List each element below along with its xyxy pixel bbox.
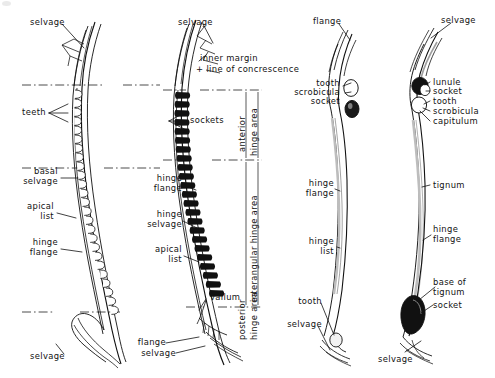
label-p2-vallum: vallum [210, 293, 240, 303]
label-p4-tignum: tignum [433, 181, 465, 191]
label-p1-selvage-top: selvage [30, 18, 65, 28]
label-region-posterior-hinge-area: hinge area [249, 292, 259, 340]
label-p2-apical-list: apical list [138, 245, 182, 264]
panel-4-socket-bottom [401, 296, 425, 334]
panel-1-specimen [62, 22, 126, 368]
label-p3-hinge-flange: hinge flange [292, 179, 334, 198]
label-region-interangular-hinge-area: interangular hinge area [249, 195, 259, 302]
label-p2-inner-margin: inner margin [200, 54, 258, 64]
label-p3-tooth-bottom: tooth [290, 297, 322, 307]
label-region-posterior: posterior [237, 299, 247, 340]
panel-3-tooth-bottom [330, 333, 342, 347]
label-p1-apical-list: apical list [10, 202, 54, 221]
label-p1-teeth: teeth [14, 108, 46, 118]
panel-4-socket-top [420, 84, 430, 95]
panel-3-socket [345, 100, 359, 117]
zone-divider-lines [22, 85, 262, 312]
panel-1-teeth [74, 90, 118, 314]
label-p2-hinge-flange: hinge flange [136, 174, 182, 193]
label-p3-flange: flange [313, 17, 341, 27]
label-p4-selvage-top: selvage [441, 16, 476, 26]
label-p2-selvage-top: selvage [178, 18, 213, 28]
label-p2-flange: flange [128, 338, 166, 348]
label-p1-selvage-bottom: selvage [30, 352, 65, 362]
label-p4-hinge-flange: hinge flange [433, 225, 461, 244]
label-p4-selvage-bottom: selvage [378, 355, 413, 365]
label-p3-selvage: selvage [282, 320, 322, 330]
label-p2-selvage-bottom: selvage [132, 349, 176, 359]
label-region-anterior: anterior [237, 116, 247, 152]
label-p2-hinge-selvage: hinge selvage [136, 210, 182, 229]
label-p1-basal-selvage: basal selvage [10, 167, 58, 186]
label-p3-socket: socket [292, 97, 340, 107]
label-p4-base-of-tignum: base of tignum [433, 278, 466, 297]
label-p4-socket-bottom: socket [433, 301, 462, 311]
label-region-anterior-hinge-area: hinge area [249, 108, 259, 156]
panel-4-tooth [411, 97, 426, 113]
panel-3-tooth [344, 80, 358, 97]
label-p2-sockets: sockets [190, 116, 224, 126]
label-p3-hinge-list: hinge list [294, 237, 334, 256]
label-p1-hinge-flange: hinge flange [10, 238, 58, 257]
label-p2-line-of-concrescence: + line of concrescence [196, 65, 299, 75]
label-p4-capitulum: capitulum [433, 117, 478, 127]
